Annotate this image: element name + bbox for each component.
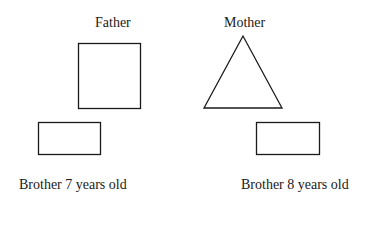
diagram-shapes [0,0,372,226]
brother-7-label: Brother 7 years old [19,178,127,192]
father-label: Father [95,16,131,30]
father-square [79,44,141,109]
brother-8-label: Brother 8 years old [241,178,349,192]
brother-7-rectangle [39,123,101,155]
mother-triangle [204,36,282,108]
brother-8-rectangle [257,123,320,155]
family-diagram: Father Mother Brother 7 years old Brothe… [0,0,372,226]
mother-label: Mother [224,16,265,30]
